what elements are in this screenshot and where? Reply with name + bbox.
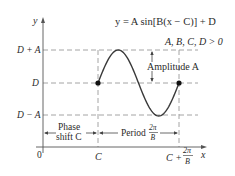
- condition-label: A, B, C, D > 0: [164, 36, 223, 47]
- period-arrowhead-left-icon: [99, 131, 103, 134]
- x-mark-end-den: B: [185, 157, 190, 166]
- y-axis-arrow-icon: [41, 17, 45, 23]
- x-mark-end-prefix: C +: [166, 152, 182, 163]
- x-mark-c-label: C: [95, 151, 102, 162]
- origin-label: 0: [37, 150, 42, 160]
- amplitude-label: Amplitude A: [147, 61, 200, 72]
- y-level-top-label: D + A: [16, 45, 41, 55]
- period-label: Period: [121, 128, 146, 138]
- phase-arrowhead-left-icon: [44, 131, 48, 134]
- amplitude-arrowhead-up-icon: [150, 51, 153, 55]
- y-level-mid-label: D: [31, 78, 39, 88]
- start-point: [95, 80, 100, 85]
- x-mark-end-num: 2π: [183, 146, 192, 155]
- y-level-bottom-label: D − A: [16, 110, 41, 120]
- equation-label: y = A sin[B(x − C)] + D: [115, 16, 216, 28]
- period-arrowhead-right-icon: [174, 131, 178, 134]
- phase-label-line1: Phase: [58, 122, 80, 132]
- sine-diagram: y = A sin[B(x − C)] + D A, B, C, D > 0 y…: [0, 0, 235, 176]
- phase-arrowhead-right-icon: [93, 131, 97, 134]
- period-den: B: [151, 133, 156, 142]
- end-point: [176, 80, 181, 85]
- phase-label-line2: shift C: [56, 132, 82, 142]
- period-num: 2π: [149, 123, 157, 132]
- x-axis-label: x: [200, 149, 206, 160]
- y-axis-label: y: [32, 15, 38, 26]
- amplitude-arrowhead-down-icon: [150, 78, 153, 82]
